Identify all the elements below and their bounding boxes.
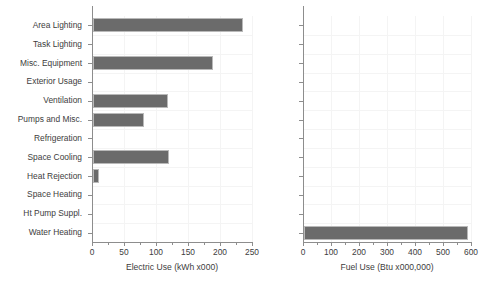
y-tick-mark: [88, 82, 92, 83]
category-label: Ht Pump Suppl.: [0, 209, 82, 218]
x-tick-minor: [401, 242, 402, 245]
gridline-horizontal: [92, 204, 252, 205]
x-tick-major: [220, 242, 221, 246]
y-tick-mark: [299, 63, 303, 64]
x-tick-major: [443, 242, 444, 246]
x-tick-minor: [236, 242, 237, 245]
y-tick-mark: [299, 233, 303, 234]
y-tick-mark: [299, 176, 303, 177]
y-tick-mark: [88, 214, 92, 215]
y-tick-mark: [299, 44, 303, 45]
x-tick-label: 250: [232, 247, 272, 257]
category-label: Pumps and Misc.: [0, 115, 82, 124]
x-tick-minor: [373, 242, 374, 245]
bar: [93, 18, 243, 32]
x-tick-minor: [429, 242, 430, 245]
y-tick-mark: [88, 176, 92, 177]
y-tick-mark: [299, 120, 303, 121]
x-tick-major: [188, 242, 189, 246]
x-tick-major: [124, 242, 125, 246]
plot-area-fuel: [303, 16, 471, 242]
gridline-horizontal: [92, 129, 252, 130]
x-axis-title-fuel: Fuel Use (Btu x000,000): [293, 262, 481, 273]
category-label: Area Lighting: [0, 21, 82, 30]
y-tick-mark: [299, 157, 303, 158]
bar: [93, 56, 213, 70]
y-tick-mark: [88, 25, 92, 26]
y-tick-mark: [299, 101, 303, 102]
gridline-horizontal: [92, 35, 252, 36]
category-label: Misc. Equipment: [0, 59, 82, 68]
gridline-horizontal: [92, 73, 252, 74]
x-tick-major: [415, 242, 416, 246]
bar: [304, 226, 468, 240]
y-tick-mark: [88, 44, 92, 45]
category-label: Refrigeration: [0, 134, 82, 143]
y-tick-mark: [88, 138, 92, 139]
x-tick-minor: [204, 242, 205, 245]
chart-panel-fuel-use: 0100200300400500600 Fuel Use (Btu x000,0…: [303, 16, 471, 242]
y-tick-mark: [88, 233, 92, 234]
gridline-vertical: [252, 16, 253, 242]
x-tick-major: [156, 242, 157, 246]
gridline-horizontal: [303, 91, 471, 92]
x-tick-minor: [108, 242, 109, 245]
gridline-horizontal: [303, 54, 471, 55]
x-tick-minor: [140, 242, 141, 245]
bar: [93, 113, 144, 127]
gridline-horizontal: [92, 167, 252, 168]
gridline-horizontal: [92, 186, 252, 187]
gridline-horizontal: [303, 73, 471, 74]
category-label: Space Cooling: [0, 153, 82, 162]
bar: [93, 94, 168, 108]
y-tick-mark: [299, 214, 303, 215]
y-tick-mark: [88, 101, 92, 102]
x-tick-major: [471, 242, 472, 246]
gridline-horizontal: [92, 91, 252, 92]
gridline-horizontal: [92, 54, 252, 55]
figure: Area LightingTask LightingMisc. Equipmen…: [0, 0, 481, 295]
category-axis-labels: Area LightingTask LightingMisc. Equipmen…: [0, 16, 86, 242]
category-label: Space Heating: [0, 190, 82, 199]
y-tick-mark: [88, 63, 92, 64]
gridline-horizontal: [303, 186, 471, 187]
chart-panel-electric-use: 050100150200250 Electric Use (kWh x000): [92, 16, 252, 242]
gridline-horizontal: [303, 204, 471, 205]
x-tick-label: 600: [451, 247, 481, 257]
x-tick-minor: [172, 242, 173, 245]
y-tick-mark: [299, 25, 303, 26]
x-tick-major: [331, 242, 332, 246]
y-tick-mark: [88, 157, 92, 158]
y-tick-mark: [88, 120, 92, 121]
gridline-horizontal: [92, 110, 252, 111]
x-tick-major: [252, 242, 253, 246]
x-tick-major: [359, 242, 360, 246]
gridline-horizontal: [303, 167, 471, 168]
gridline-horizontal: [303, 223, 471, 224]
y-tick-mark: [299, 195, 303, 196]
x-tick-major: [92, 242, 93, 246]
bar: [93, 169, 99, 183]
category-label: Ventilation: [0, 96, 82, 105]
category-label: Water Heating: [0, 228, 82, 237]
y-axis-line-fuel: [303, 6, 304, 243]
category-label: Exterior Usage: [0, 77, 82, 86]
y-tick-mark: [299, 138, 303, 139]
gridline-horizontal: [92, 148, 252, 149]
bar: [93, 150, 169, 164]
gridline-horizontal: [303, 35, 471, 36]
y-axis-line-electric: [92, 6, 93, 243]
x-tick-minor: [457, 242, 458, 245]
x-axis-title-electric: Electric Use (kWh x000): [80, 262, 264, 273]
category-label: Task Lighting: [0, 40, 82, 49]
x-tick-major: [303, 242, 304, 246]
gridline-horizontal: [303, 148, 471, 149]
gridline-vertical: [471, 16, 472, 242]
gridline-horizontal: [303, 129, 471, 130]
x-tick-minor: [317, 242, 318, 245]
y-tick-mark: [299, 82, 303, 83]
gridline-horizontal: [92, 223, 252, 224]
x-tick-minor: [345, 242, 346, 245]
gridline-horizontal: [303, 110, 471, 111]
plot-area-electric: [92, 16, 252, 242]
